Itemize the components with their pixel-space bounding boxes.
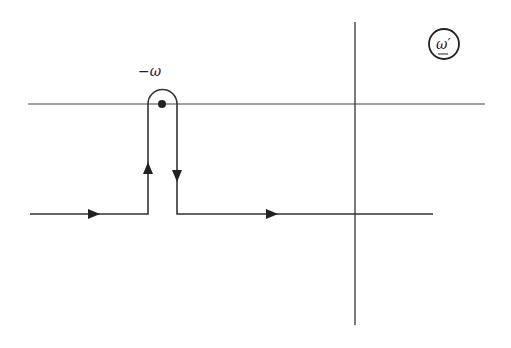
plane-label: ω′ bbox=[436, 36, 451, 52]
pole-point bbox=[158, 100, 166, 108]
arrow-right-icon bbox=[88, 209, 100, 219]
pole-label: −ω bbox=[138, 63, 162, 79]
arrow-down-icon bbox=[172, 170, 182, 182]
arrow-right-icon bbox=[266, 209, 278, 219]
integration-contour bbox=[30, 90, 433, 215]
arrow-up-icon bbox=[143, 162, 153, 174]
contour-diagram: −ω ω′ bbox=[0, 0, 511, 348]
